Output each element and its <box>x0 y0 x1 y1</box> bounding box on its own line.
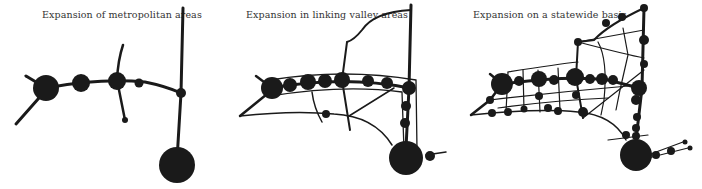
valley-network-map <box>234 0 468 189</box>
panel-statewide: Expansion on a statewide basis <box>468 0 702 189</box>
metropolitan-network-map <box>0 0 234 189</box>
statewide-network-map <box>468 0 702 189</box>
panel-valley: Expansion in linking valley areas <box>234 0 468 189</box>
panel-metropolitan: Expansion of metropolitan areas <box>0 0 234 189</box>
